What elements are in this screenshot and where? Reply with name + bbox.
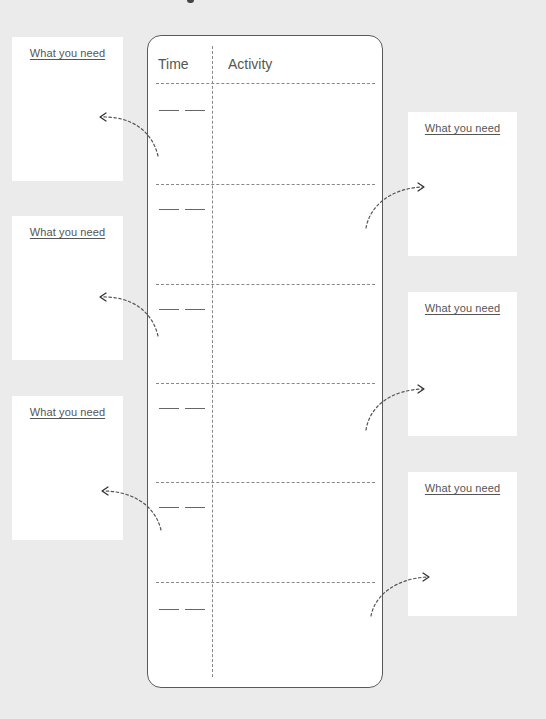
slot-divider-line [156, 284, 375, 285]
cropped-title-fragment [187, 0, 194, 3]
slot-divider-line [156, 582, 375, 583]
schedule-card: Time Activity [147, 35, 383, 688]
time-blank-slot-4[interactable] [159, 408, 205, 409]
hour-blank[interactable] [159, 209, 179, 210]
minute-blank[interactable] [185, 507, 205, 508]
need-panel-label: What you need [408, 302, 517, 314]
time-blank-slot-2[interactable] [159, 209, 205, 210]
need-panel-label: What you need [408, 122, 517, 134]
need-panel-left-1: What you need [12, 37, 123, 181]
hour-blank[interactable] [159, 609, 179, 610]
minute-blank[interactable] [185, 110, 205, 111]
need-panel-right-2: What you need [408, 292, 517, 436]
time-blank-slot-5[interactable] [159, 507, 205, 508]
minute-blank[interactable] [185, 609, 205, 610]
minute-blank[interactable] [185, 309, 205, 310]
hour-blank[interactable] [159, 408, 179, 409]
need-panel-left-3: What you need [12, 396, 123, 540]
slot-divider-line [156, 482, 375, 483]
need-panel-right-3: What you need [408, 472, 517, 616]
hour-blank[interactable] [159, 507, 179, 508]
time-blank-slot-3[interactable] [159, 309, 205, 310]
minute-blank[interactable] [185, 408, 205, 409]
need-panel-right-1: What you need [408, 112, 517, 256]
header-divider-line [156, 83, 375, 84]
slot-divider-line [156, 383, 375, 384]
slot-divider-line [156, 184, 375, 185]
time-column-header: Time [158, 56, 189, 72]
need-panel-label: What you need [12, 226, 123, 238]
minute-blank[interactable] [185, 209, 205, 210]
need-panel-label: What you need [12, 406, 123, 418]
time-blank-slot-1[interactable] [159, 110, 205, 111]
need-panel-left-2: What you need [12, 216, 123, 360]
hour-blank[interactable] [159, 309, 179, 310]
need-panel-label: What you need [12, 47, 123, 59]
hour-blank[interactable] [159, 110, 179, 111]
time-blank-slot-6[interactable] [159, 609, 205, 610]
activity-column-header: Activity [228, 56, 272, 72]
need-panel-label: What you need [408, 482, 517, 494]
